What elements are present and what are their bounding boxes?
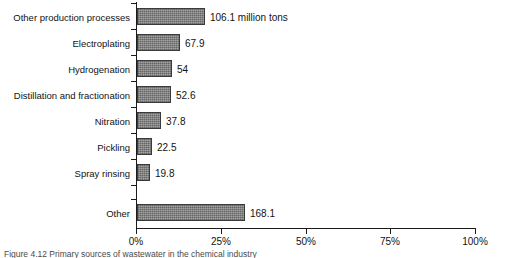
- category-label-nitration: Nitration: [0, 116, 130, 127]
- x-axis-tick: [136, 229, 137, 234]
- x-axis-tick: [221, 229, 222, 234]
- bar-value-spray-rinsing: 19.8: [155, 168, 174, 179]
- x-axis-tick: [306, 229, 307, 234]
- bar-spray-rinsing[interactable]: [137, 164, 150, 181]
- x-axis-tick-label-100: 100%: [462, 236, 488, 247]
- y-axis-tick: [131, 81, 137, 82]
- bar-value-hydrogenation: 54: [177, 64, 188, 75]
- bar-value-other: 168.1: [250, 208, 275, 219]
- bar-distillation-and-fractionation[interactable]: [137, 86, 171, 103]
- bar-other[interactable]: [137, 204, 245, 221]
- bar-value-electroplating: 67.9: [185, 38, 204, 49]
- bar-value-nitration: 37.8: [166, 116, 185, 127]
- category-label-other-production-processes: Other production processes: [0, 12, 130, 23]
- y-axis-tick: [131, 107, 137, 108]
- bar-hydrogenation[interactable]: [137, 60, 172, 77]
- bar-chart-plot: Other production processes Electroplatin…: [0, 0, 509, 258]
- bar-value-distillation-and-fractionation: 52.6: [176, 90, 195, 101]
- y-axis-tick: [131, 199, 137, 200]
- y-axis-tick: [131, 55, 137, 56]
- category-label-electroplating: Electroplating: [0, 38, 130, 49]
- category-label-spray-rinsing: Spray rinsing: [0, 168, 130, 179]
- x-axis-tick-label-75: 75%: [380, 236, 400, 247]
- category-label-hydrogenation: Hydrogenation: [0, 64, 130, 75]
- bar-electroplating[interactable]: [137, 34, 180, 51]
- bar-value-pickling: 22.5: [157, 142, 176, 153]
- y-axis-tick: [131, 133, 137, 134]
- bar-pickling[interactable]: [137, 138, 152, 155]
- y-axis-tick: [131, 185, 137, 186]
- bar-nitration[interactable]: [137, 112, 161, 129]
- y-axis-line: [136, 2, 137, 228]
- y-axis-tick: [131, 3, 137, 4]
- x-axis-tick: [475, 229, 476, 234]
- y-axis-tick: [131, 159, 137, 160]
- bar-other-production-processes[interactable]: [137, 8, 205, 25]
- figure-container: Other production processes Electroplatin…: [0, 0, 509, 258]
- figure-caption: Figure 4.12 Primary sources of wastewate…: [4, 249, 504, 258]
- category-label-distillation-and-fractionation: Distillation and fractionation: [0, 90, 130, 101]
- bar-value-other-production-processes: 106.1 million tons: [210, 12, 288, 23]
- x-axis-tick-label-25: 25%: [211, 236, 231, 247]
- category-label-pickling: Pickling: [0, 142, 130, 153]
- x-axis-tick-label-50: 50%: [296, 236, 316, 247]
- y-axis-tick: [131, 29, 137, 30]
- x-axis-tick: [390, 229, 391, 234]
- x-axis-tick-label-0: 0%: [129, 236, 143, 247]
- category-label-other: Other: [0, 208, 130, 219]
